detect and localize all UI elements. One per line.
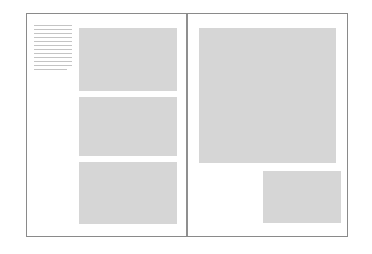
image-placeholder [79,162,177,224]
text-line [34,69,67,70]
text-line [34,25,72,26]
text-line [34,29,72,30]
image-placeholder-large [199,28,336,163]
text-line [34,53,72,54]
text-line [34,33,72,34]
text-line [34,37,72,38]
text-line [34,57,72,58]
text-line [34,49,72,50]
image-placeholder [79,28,177,91]
text-column [34,25,72,71]
text-line [34,45,72,46]
left-page [27,14,186,236]
image-placeholder [79,97,177,156]
image-placeholder-small [263,171,341,223]
text-line [34,61,72,62]
right-page [188,14,347,236]
text-line [34,41,72,42]
text-line [34,65,72,66]
page-spread [26,13,348,237]
